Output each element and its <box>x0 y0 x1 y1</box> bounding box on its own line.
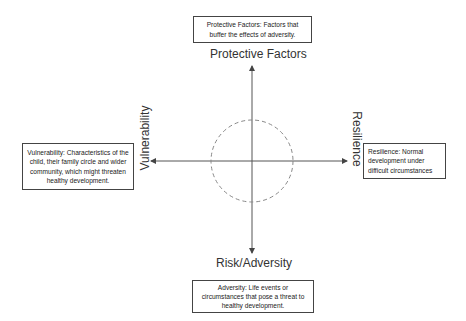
vulnerability-label: Vulnerability <box>138 102 152 174</box>
resilience-label: Resilience <box>350 107 364 171</box>
protective-factors-box: Protective Factors: Factors that buffer … <box>193 16 312 43</box>
risk-adversity-label: Risk/Adversity <box>216 256 292 270</box>
adversity-box: Adversity: Life events or circumstances … <box>192 280 314 313</box>
vulnerability-description: Vulnerability: Characteristics of the ch… <box>27 148 129 185</box>
resilience-box: Resilience: Normal development under dif… <box>363 143 446 179</box>
protective-factors-label: Protective Factors <box>210 47 307 61</box>
resilience-description: Resilience: Normal development under dif… <box>368 147 441 175</box>
adversity-description: Adversity: Life events or circumstances … <box>197 283 309 311</box>
protective-factors-description: Protective Factors: Factors that buffer … <box>198 20 307 38</box>
vulnerability-box: Vulnerability: Characteristics of the ch… <box>22 143 134 190</box>
